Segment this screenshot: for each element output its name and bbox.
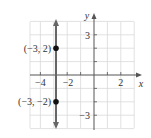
point-label-neg3-2: (−3, 2) <box>24 43 51 55</box>
point-neg3-2 <box>53 45 59 51</box>
x-tick-label-neg2: −2 <box>63 77 74 88</box>
point-label-neg3-neg2: (−3, −2) <box>18 96 51 108</box>
x-tick-label-neg4: −4 <box>35 77 46 88</box>
y-axis-label: y <box>84 10 90 21</box>
coordinate-plane: −4 −2 2 x 3 −3 y (−3, 2) (−3, −2) <box>0 0 151 138</box>
y-axis: 3 −3 y <box>79 10 97 130</box>
y-axis-arrow-icon <box>92 13 97 19</box>
x-axis-arrow-icon <box>136 73 142 78</box>
y-tick-label-3: 3 <box>85 30 90 41</box>
y-tick-label-neg3: −3 <box>79 110 90 121</box>
x-tick-label-2: 2 <box>118 77 123 88</box>
x-axis-label: x <box>138 78 144 89</box>
point-neg3-neg2 <box>53 99 59 105</box>
x-axis: −4 −2 2 x <box>30 72 144 89</box>
